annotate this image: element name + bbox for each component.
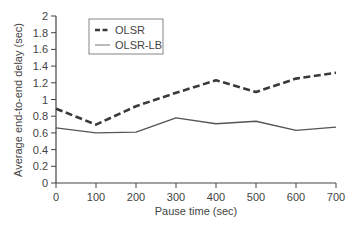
x-tick-label: 600 [287,191,305,203]
x-axis-label: Pause time (sec) [155,205,238,217]
legend-label-olsr-lb: OLSR-LB [115,39,162,51]
y-tick-label: 0.4 [33,144,48,156]
y-tick-label: 1.4 [33,60,48,72]
x-tick-label: 500 [247,191,265,203]
line-chart: 00.20.40.60.811.21.41.61.82 010020030040… [0,0,361,227]
y-tick-label: 2 [42,10,48,22]
x-tick-label: 0 [53,191,59,203]
x-tick-label: 100 [87,191,105,203]
x-tick-label: 300 [167,191,185,203]
y-tick-label: 0 [42,177,48,189]
series-lines [56,73,336,133]
legend: OLSR OLSR-LB [89,19,163,54]
series-line-olsr-lb [56,118,336,133]
y-tick-label: 0.2 [33,160,48,172]
y-tick-label: 0.6 [33,127,48,139]
legend-label-olsr: OLSR [115,24,145,36]
x-tick-label: 200 [127,191,145,203]
y-tick-label: 1.6 [33,43,48,55]
x-tick-label: 700 [327,191,345,203]
x-axis-ticks: 0100200300400500600700 [53,183,345,203]
y-tick-label: 1.2 [33,77,48,89]
y-tick-label: 1 [42,94,48,106]
y-tick-label: 0.8 [33,110,48,122]
y-axis-ticks: 00.20.40.60.811.21.41.61.82 [33,10,56,189]
x-tick-label: 400 [207,191,225,203]
y-tick-label: 1.8 [33,27,48,39]
series-line-olsr [56,73,336,125]
y-axis-label: Average end-to-end delay (sec) [12,23,24,177]
